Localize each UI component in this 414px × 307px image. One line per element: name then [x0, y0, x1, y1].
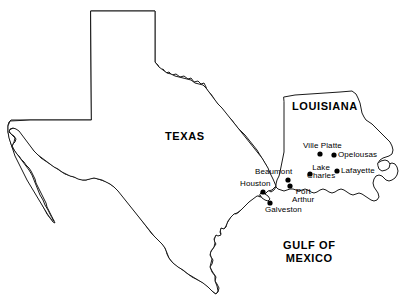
city-label-houston: Houston [240, 180, 271, 188]
city-label-lafayette: Lafayette [341, 167, 375, 175]
gulf-label-line-2: MEXICO [283, 252, 335, 265]
water-label-gulf-of-mexico: GULF OF MEXICO [283, 239, 335, 265]
city-label-port-arthur-line-2: Arthur [292, 196, 314, 204]
gulf-label-line-1: GULF OF [283, 239, 335, 252]
city-dot-beaumont[interactable] [285, 177, 290, 182]
city-dot-opelousas[interactable] [331, 152, 336, 157]
city-dot-houston[interactable] [260, 189, 265, 194]
map-canvas: TEXAS LOUISIANA GULF OF MEXICO HoustonBe… [0, 0, 414, 307]
city-label-galveston: Galveston [265, 206, 302, 214]
city-label-lake-charles: LakeCharles [307, 164, 335, 181]
region-label-louisiana: LOUISIANA [292, 101, 358, 113]
region-label-texas: TEXAS [165, 131, 205, 143]
city-label-opelousas: Opelousas [338, 151, 377, 159]
city-label-ville-platte: Ville Platte [303, 142, 342, 150]
texas-silhouette [8, 11, 276, 294]
city-dot-ville-platte[interactable] [317, 151, 322, 156]
city-label-port-arthur: PortArthur [292, 188, 314, 205]
city-label-lake-charles-line-2: Charles [307, 172, 335, 180]
city-label-beaumont: Beaumont [255, 168, 292, 176]
